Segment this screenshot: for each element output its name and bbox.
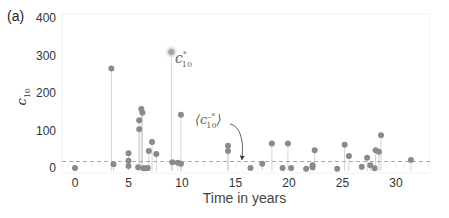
data-point bbox=[178, 161, 184, 167]
data-point bbox=[310, 162, 316, 168]
data-point bbox=[126, 158, 132, 164]
data-point bbox=[408, 157, 414, 163]
data-point bbox=[126, 163, 132, 169]
data-point bbox=[145, 165, 151, 171]
data-point bbox=[135, 164, 141, 170]
data-point bbox=[111, 161, 117, 167]
data-point bbox=[108, 66, 114, 72]
data-point bbox=[136, 126, 142, 132]
data-point bbox=[312, 147, 318, 153]
highlight-label: c*10 bbox=[175, 50, 192, 69]
data-point bbox=[72, 165, 78, 171]
data-point bbox=[146, 148, 152, 154]
figure: (a) 0100200300400 051015202530 c10 Time … bbox=[0, 0, 449, 218]
data-point bbox=[372, 165, 378, 171]
stems bbox=[75, 52, 411, 171]
data-point bbox=[149, 139, 155, 145]
data-point bbox=[139, 110, 145, 116]
data-point bbox=[303, 166, 309, 172]
data-point bbox=[285, 141, 291, 147]
data-point bbox=[346, 153, 352, 159]
data-point bbox=[269, 141, 275, 147]
data-point bbox=[378, 132, 384, 138]
data-point bbox=[225, 143, 231, 149]
data-point bbox=[126, 150, 132, 156]
data-point bbox=[288, 165, 294, 171]
data-point bbox=[280, 165, 286, 171]
data-point bbox=[169, 159, 175, 165]
data-point bbox=[342, 142, 348, 148]
data-point bbox=[136, 117, 142, 123]
annotation-arrow bbox=[230, 124, 243, 158]
data-point bbox=[178, 112, 184, 118]
data-point bbox=[153, 151, 159, 157]
data-point bbox=[364, 155, 370, 161]
mean-annotation-label: ⟨c–*10⟩ bbox=[195, 112, 222, 130]
data-point bbox=[247, 165, 253, 171]
data-point bbox=[259, 161, 265, 167]
data-point bbox=[359, 164, 365, 170]
data-point bbox=[376, 149, 382, 155]
plot-area bbox=[0, 0, 449, 218]
data-point bbox=[334, 166, 340, 172]
data-point bbox=[225, 148, 231, 154]
data-points bbox=[72, 49, 414, 172]
